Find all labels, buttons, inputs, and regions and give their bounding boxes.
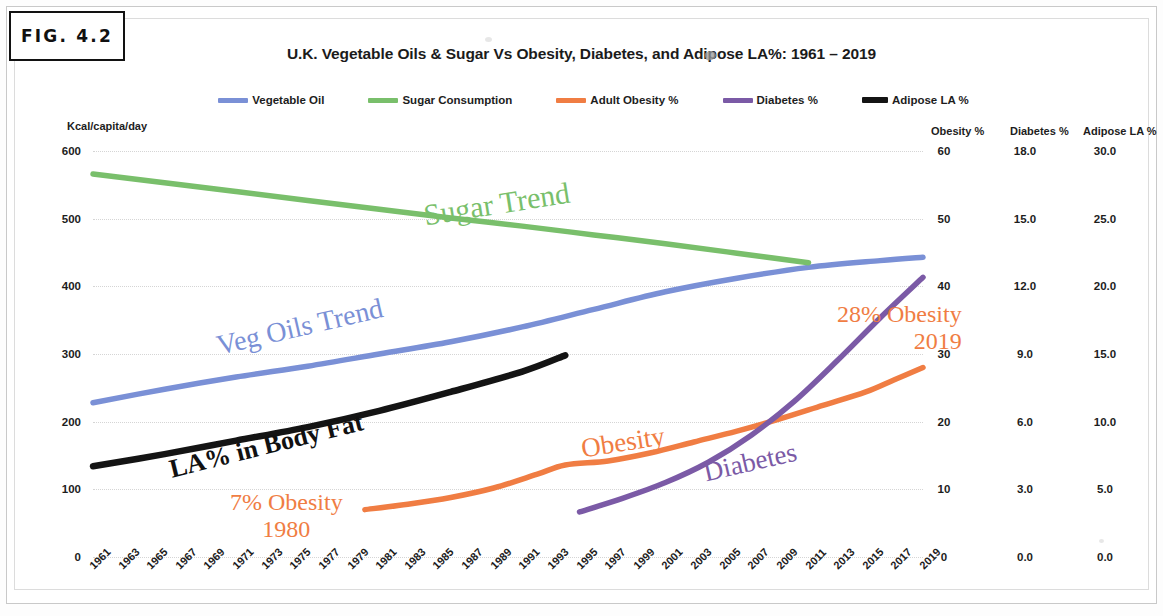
axis-caption-left: Kcal/capita/day [67,120,147,132]
y-tick-adipose: 10.0 [1079,416,1131,428]
x-axis-ticks: 1961196319651967196919711973197519771979… [93,559,923,616]
y-tick-adipose: 25.0 [1079,213,1131,225]
y-tick-diabetes: 15.0 [1003,213,1047,225]
legend-item-label: Sugar Consumption [402,94,512,106]
y-tick-diabetes: 6.0 [1003,416,1047,428]
axis-caption-diabetes: Diabetes % [1010,125,1069,137]
y-tick-diabetes: 9.0 [1003,348,1047,360]
legend-swatch-icon [368,98,398,103]
annotation-obesity-end-line1: 28% Obesity [837,301,962,328]
y-tick-left: 500 [35,213,81,225]
y-tick-obesity: 10 [927,483,961,495]
axis-caption-adipose: Adipose LA % [1083,125,1157,137]
legend-swatch-icon [862,97,888,103]
y-tick-adipose: 30.0 [1079,145,1131,157]
y-axis-ticks-adipose: 30.025.020.015.010.05.00.0 [1079,151,1131,557]
y-axis-ticks-diabetes: 18.015.012.09.06.03.00.0 [1003,151,1047,557]
figure-page: FIG. 4.2 U.K. Vegetable Oils & Sugar Vs … [0,0,1163,616]
legend-item-diabetes[interactable]: Diabetes % [723,94,818,106]
legend-item-sugar-consumption[interactable]: Sugar Consumption [368,94,512,106]
legend-item-label: Adult Obesity % [590,94,678,106]
chart-title: U.K. Vegetable Oils & Sugar Vs Obesity, … [15,45,1148,63]
y-tick-left: 400 [35,280,81,292]
figure-number-box: FIG. 4.2 [9,11,125,61]
chart-container: U.K. Vegetable Oils & Sugar Vs Obesity, … [14,18,1149,590]
scan-speck [1099,539,1104,543]
y-tick-diabetes: 18.0 [1003,145,1047,157]
y-tick-diabetes: 0.0 [1003,551,1047,563]
y-tick-obesity: 20 [927,416,961,428]
y-tick-left: 0 [35,551,81,563]
legend-swatch-icon [556,98,586,103]
annotation-obesity-start-line2: 1980 [230,516,343,543]
y-tick-obesity: 40 [927,280,961,292]
y-tick-left: 200 [35,416,81,428]
legend-item-label: Diabetes % [757,94,818,106]
y-tick-adipose: 20.0 [1079,280,1131,292]
scan-speck [485,37,492,42]
legend-item-adult-obesity[interactable]: Adult Obesity % [556,94,678,106]
legend-item-adipose-la[interactable]: Adipose LA % [862,94,969,106]
legend-swatch-icon [218,98,248,103]
y-tick-adipose: 15.0 [1079,348,1131,360]
y-tick-obesity: 50 [927,213,961,225]
y-tick-adipose: 5.0 [1079,483,1131,495]
annotation-obesity-start-line1: 7% Obesity [230,489,343,516]
y-tick-adipose: 0.0 [1079,551,1131,563]
chart-legend: Vegetable OilSugar ConsumptionAdult Obes… [15,94,1148,106]
series-line-adipose-la [93,355,565,466]
y-tick-obesity: 60 [927,145,961,157]
axis-caption-obesity: Obesity % [931,125,984,137]
y-tick-left: 600 [35,145,81,157]
y-tick-left: 300 [35,348,81,360]
annotation-obesity-end-line2: 2019 [837,328,962,355]
y-tick-left: 100 [35,483,81,495]
figure-number-label: FIG. 4.2 [21,26,113,46]
legend-swatch-icon [723,98,753,103]
legend-item-vegetable-oil[interactable]: Vegetable Oil [218,94,324,106]
y-tick-diabetes: 12.0 [1003,280,1047,292]
legend-item-label: Adipose LA % [892,94,969,106]
y-tick-diabetes: 3.0 [1003,483,1047,495]
x-tick-label: 1961 [87,546,113,572]
annotation-obesity-start: 7% Obesity 1980 [230,489,343,544]
y-axis-ticks-left: 6005004003002001000 [35,151,81,557]
annotation-obesity-end: 28% Obesity 2019 [837,301,962,356]
legend-item-label: Vegetable Oil [252,94,324,106]
